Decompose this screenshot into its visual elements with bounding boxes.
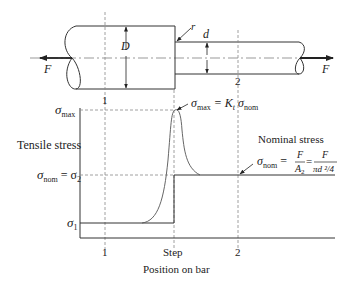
nominal-stress-leader	[240, 164, 253, 174]
dimension-D-label: D	[120, 39, 130, 53]
sigma-max-annotation: σmax = Kt σnom	[191, 96, 259, 112]
sigma-max-leader	[177, 104, 188, 110]
stepped-bar	[30, 26, 328, 89]
stress-concentration-diagram: F F D d r 1 2 σmax Tensile stress σnom =…	[0, 0, 353, 285]
x-tick-2: 2	[235, 246, 241, 258]
fillet-radius-leader	[177, 28, 191, 41]
x-tick-step: Step	[163, 246, 183, 258]
nominal-stress-curve	[80, 175, 335, 223]
y-tick-sigma-1: σ1	[67, 215, 77, 232]
nominal-stress-eq2: =	[306, 155, 312, 167]
station-1-label-top: 1	[102, 94, 108, 106]
nominal-stress-lhs: σnom =	[257, 154, 287, 170]
x-axis-label: Position on bar	[143, 263, 210, 275]
y-tick-sigma-nom: σnom = σ2	[37, 167, 81, 184]
force-label-left: F	[43, 62, 52, 76]
fraction2-denominator: πd ²/4	[313, 164, 334, 174]
y-axis-label: Tensile stress	[17, 138, 81, 152]
fraction1-denominator: A2	[294, 163, 305, 176]
actual-stress-curve	[142, 110, 200, 223]
fillet-radius-label: r	[191, 20, 196, 32]
x-tick-1: 1	[102, 246, 108, 258]
dimension-d-label: d	[203, 27, 210, 41]
force-label-right: F	[321, 62, 330, 76]
fraction1-numerator: F	[296, 149, 304, 160]
station-2-label-top: 2	[235, 75, 241, 87]
nominal-stress-title: Nominal stress	[258, 133, 324, 145]
y-tick-sigma-max: σmax	[55, 102, 75, 119]
fraction2-numerator: F	[321, 149, 329, 160]
